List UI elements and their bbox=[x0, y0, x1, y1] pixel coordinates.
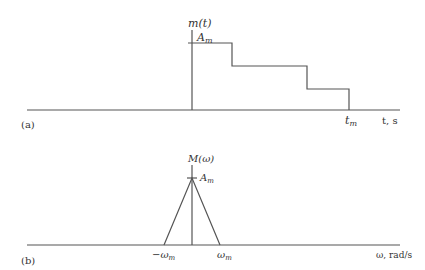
pos-omega-m-label: ωm bbox=[217, 249, 232, 262]
amplitude-label-a: Am bbox=[196, 31, 213, 45]
tm-label: tm bbox=[345, 114, 357, 128]
m-t-label: m(t) bbox=[188, 17, 211, 30]
signal-spectrum-diagram: m(t) Am tm t, s (a) M(ω) Am −ωm ωm ω, ra… bbox=[0, 0, 425, 270]
panel-a-time-domain: m(t) Am tm t, s (a) bbox=[21, 17, 400, 130]
M-omega-label: M(ω) bbox=[187, 153, 214, 164]
panel-b-frequency-domain: M(ω) Am −ωm ωm ω, rad/s (b) bbox=[21, 153, 413, 266]
panel-a-label: (a) bbox=[21, 119, 35, 130]
panel-b-label: (b) bbox=[21, 255, 35, 266]
t-axis-label: t, s bbox=[382, 115, 398, 126]
amplitude-label-b: Am bbox=[199, 172, 214, 185]
omega-axis-label: ω, rad/s bbox=[376, 250, 413, 260]
neg-omega-m-label: −ωm bbox=[152, 249, 176, 262]
staircase-signal bbox=[188, 43, 349, 110]
